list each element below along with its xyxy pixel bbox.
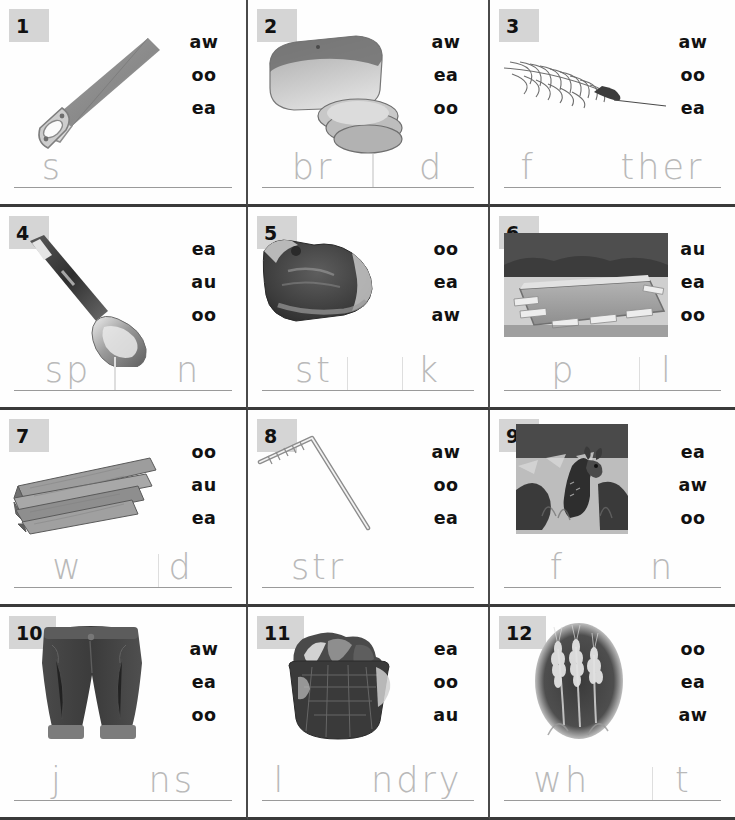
worksheet-cell[interactable]: 6 [490, 207, 735, 410]
answer-rule [504, 587, 721, 589]
straw-photo [248, 420, 428, 560]
option-0[interactable]: aw [176, 26, 232, 59]
worksheet-cell[interactable]: 3 [490, 0, 735, 207]
answer-line-area[interactable]: str [262, 548, 474, 594]
answer-rule [504, 800, 721, 802]
option-2[interactable]: aw [418, 299, 474, 332]
option-0[interactable]: oo [176, 436, 232, 469]
option-2[interactable]: oo [665, 502, 721, 535]
answer-rule [14, 800, 232, 802]
answer-prompt-text: p l [504, 351, 721, 389]
option-0[interactable]: ea [176, 233, 232, 266]
answer-prompt-text: s [14, 148, 232, 186]
option-0[interactable]: au [665, 233, 721, 266]
answer-rule [14, 390, 232, 392]
option-2[interactable]: oo [418, 92, 474, 125]
answer-line-area[interactable]: wh t [504, 761, 721, 807]
option-2[interactable]: au [418, 699, 474, 732]
option-2[interactable]: oo [176, 299, 232, 332]
answer-line-area[interactable]: p l [504, 351, 721, 397]
option-1[interactable]: au [176, 469, 232, 502]
worksheet-cell[interactable]: 7 [0, 410, 248, 607]
answer-prompt-text: st k [262, 351, 474, 389]
answer-prompt-text: f ther [504, 148, 721, 186]
answer-prompt-text: l ndry [262, 761, 474, 799]
option-list[interactable]: aw oo ea [665, 26, 721, 125]
worksheet-cell[interactable]: 1 aw [0, 0, 248, 207]
option-1[interactable]: ea [665, 266, 721, 299]
answer-prompt-text: br d [262, 148, 474, 186]
option-1[interactable]: ea [418, 59, 474, 92]
option-list[interactable]: oo au ea [176, 436, 232, 535]
jeans-photo [26, 615, 156, 755]
option-list[interactable]: aw oo ea [176, 26, 232, 125]
answer-prompt-text: j ns [14, 761, 232, 799]
answer-prompt-text: w d [14, 548, 232, 586]
option-2[interactable]: ea [176, 92, 232, 125]
option-0[interactable]: oo [665, 633, 721, 666]
worksheet-cell[interactable]: 9 [490, 410, 735, 607]
answer-rule [504, 187, 721, 189]
answer-line-area[interactable]: f ther [504, 148, 721, 194]
option-2[interactable]: aw [665, 699, 721, 732]
option-0[interactable]: ea [418, 633, 474, 666]
option-list[interactable]: aw oo ea [418, 436, 474, 535]
worksheet-cell[interactable]: 5 oo [248, 207, 490, 410]
option-list[interactable]: aw ea oo [418, 26, 474, 125]
option-0[interactable]: aw [418, 436, 474, 469]
worksheet-cell[interactable]: 11 ea o [248, 607, 490, 820]
option-0[interactable]: aw [418, 26, 474, 59]
answer-line-area[interactable]: j ns [14, 761, 232, 807]
answer-line-area[interactable]: st k [262, 351, 474, 397]
option-1[interactable]: ea [418, 266, 474, 299]
answer-rule [262, 390, 474, 392]
option-list[interactable]: ea au oo [176, 233, 232, 332]
option-list[interactable]: oo ea aw [665, 633, 721, 732]
answer-line-area[interactable]: br d [262, 148, 474, 194]
option-list[interactable]: au ea oo [665, 233, 721, 332]
answer-prompt-text: f n [504, 548, 721, 586]
option-1[interactable]: oo [418, 666, 474, 699]
option-2[interactable]: oo [176, 699, 232, 732]
option-list[interactable]: ea oo au [418, 633, 474, 732]
option-list[interactable]: aw ea oo [176, 633, 232, 732]
answer-rule [14, 187, 232, 189]
worksheet-grid: 1 aw [0, 0, 735, 820]
option-1[interactable]: ea [665, 666, 721, 699]
option-0[interactable]: ea [665, 436, 721, 469]
worksheet-cell[interactable]: 10 [0, 607, 248, 820]
answer-rule [14, 587, 232, 589]
option-1[interactable]: au [176, 266, 232, 299]
worksheet-cell[interactable]: 8 aw oo ea str [248, 410, 490, 607]
option-2[interactable]: ea [665, 92, 721, 125]
answer-line-area[interactable]: sp n [14, 351, 232, 397]
answer-line-area[interactable]: s [14, 148, 232, 194]
option-0[interactable]: aw [176, 633, 232, 666]
option-2[interactable]: oo [665, 299, 721, 332]
answer-prompt-text: sp n [14, 351, 232, 389]
option-2[interactable]: ea [418, 502, 474, 535]
option-1[interactable]: oo [665, 59, 721, 92]
option-1[interactable]: ea [176, 666, 232, 699]
answer-line-area[interactable]: l ndry [262, 761, 474, 807]
laundry-photo [268, 615, 408, 755]
option-list[interactable]: ea aw oo [665, 436, 721, 535]
option-0[interactable]: oo [418, 233, 474, 266]
answer-prompt-text: wh t [504, 761, 721, 799]
option-1[interactable]: oo [418, 469, 474, 502]
fawn-photo [512, 420, 632, 560]
worksheet-cell[interactable]: 4 [0, 207, 248, 410]
answer-prompt-text: str [262, 548, 474, 586]
answer-line-area[interactable]: w d [14, 548, 232, 594]
pool-photo [498, 225, 678, 365]
wood-photo [0, 424, 180, 564]
option-2[interactable]: ea [176, 502, 232, 535]
option-1[interactable]: aw [665, 469, 721, 502]
answer-line-area[interactable]: f n [504, 548, 721, 594]
cell-number-badge: 3 [499, 9, 539, 42]
option-0[interactable]: aw [665, 26, 721, 59]
worksheet-cell[interactable]: 2 aw [248, 0, 490, 207]
option-list[interactable]: oo ea aw [418, 233, 474, 332]
option-1[interactable]: oo [176, 59, 232, 92]
worksheet-cell[interactable]: 12 [490, 607, 735, 820]
